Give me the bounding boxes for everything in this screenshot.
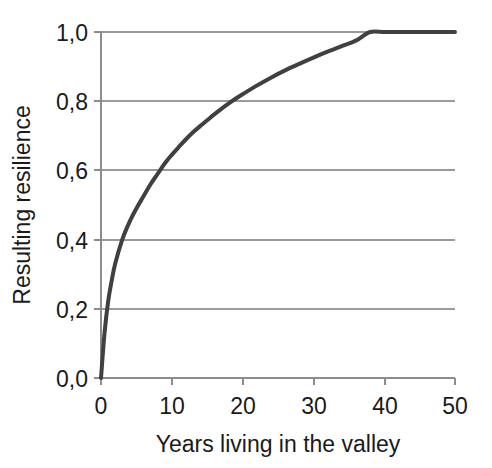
data-series-line: [101, 31, 455, 378]
resilience-line-chart: 1,0 0,8 0,6 0,4 0,2 0,0 0 10 20 30 40 50…: [0, 0, 492, 468]
x-axis-title: Years living in the valley: [156, 431, 401, 457]
x-tick-label-40: 40: [372, 393, 398, 419]
x-tick-labels: 0 10 20 30 40 50: [95, 393, 468, 419]
x-tick-label-50: 50: [442, 393, 468, 419]
y-tick-label-1.0: 1,0: [56, 20, 88, 46]
y-tick-label-0.4: 0,4: [56, 228, 88, 254]
y-tick-label-0.2: 0,2: [56, 297, 88, 323]
x-tick-label-0: 0: [95, 393, 108, 419]
chart-figure: 1,0 0,8 0,6 0,4 0,2 0,0 0 10 20 30 40 50…: [0, 0, 492, 468]
y-axis-title: Resulting resilience: [9, 105, 35, 304]
x-tick-label-10: 10: [159, 393, 185, 419]
y-tick-label-0.8: 0,8: [56, 89, 88, 115]
y-tick-label-0.6: 0,6: [56, 158, 88, 184]
y-tick-label-0.0: 0,0: [56, 366, 88, 392]
y-tick-labels: 1,0 0,8 0,6 0,4 0,2 0,0: [56, 20, 88, 392]
x-tick-label-20: 20: [230, 393, 256, 419]
x-axis-ticks: [101, 378, 455, 385]
y-axis-ticks: [94, 32, 101, 378]
x-tick-label-30: 30: [301, 393, 327, 419]
